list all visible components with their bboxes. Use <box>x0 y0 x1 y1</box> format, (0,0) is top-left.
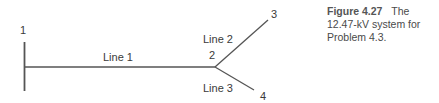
line-2-label: Line 2 <box>203 33 233 45</box>
node-4-label: 4 <box>260 90 266 102</box>
line-3-label: Line 3 <box>203 82 233 94</box>
figure-number: Figure 4.27 <box>327 5 382 17</box>
node-2-label: 2 <box>209 49 215 61</box>
node-1-label: 1 <box>20 24 26 36</box>
line-1-label: Line 1 <box>103 51 133 63</box>
node-3-label: 3 <box>271 8 277 20</box>
figure-caption: Figure 4.27 The 12.47-kV system for Prob… <box>327 5 437 44</box>
